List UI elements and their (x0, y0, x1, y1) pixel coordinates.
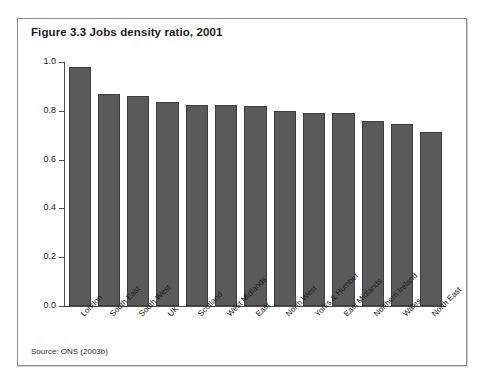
chart-plot-area: Jobs per working age (16-59/64) resident… (64, 62, 446, 307)
y-tick-label: 0.4 (43, 202, 56, 212)
y-tick: 0.6 (59, 160, 64, 161)
figure-title: Figure 3.3 Jobs density ratio, 2001 (31, 26, 222, 38)
y-tick: 0.4 (59, 208, 64, 209)
y-tick-label: 0.0 (43, 300, 56, 310)
bar (156, 102, 178, 306)
bar (362, 121, 384, 306)
bar-series (65, 62, 446, 306)
y-tick-label: 0.6 (43, 154, 56, 164)
bar (215, 105, 237, 306)
figure-frame: Figure 3.3 Jobs density ratio, 2001 Jobs… (17, 18, 467, 366)
bar (303, 113, 325, 306)
y-tick: 0.2 (59, 257, 64, 258)
bar (98, 94, 120, 306)
bar (274, 111, 296, 306)
y-tick-label: 0.2 (43, 251, 56, 261)
y-tick: 1.0 (59, 62, 64, 63)
bar (127, 96, 149, 306)
y-tick-label: 1.0 (43, 56, 56, 66)
bar (420, 132, 442, 306)
bar (186, 105, 208, 306)
y-tick: 0.0 (59, 306, 64, 307)
y-tick: 0.8 (59, 111, 64, 112)
bar (69, 67, 91, 306)
source-note: Source: ONS (2003b) (31, 347, 108, 356)
y-tick-label: 0.8 (43, 105, 56, 115)
